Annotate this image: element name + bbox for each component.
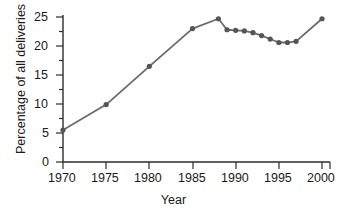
y-axis-title: Percentage of all deliveries <box>14 4 28 154</box>
data-point <box>216 16 221 21</box>
data-point <box>233 28 238 33</box>
x-tick-label-1985: 1985 <box>178 172 206 185</box>
chart-container: 25 20 15 10 5 0 1970 1975 1980 1985 1990… <box>0 0 347 217</box>
y-tick-label-25: 25 <box>34 11 48 24</box>
data-point <box>147 64 152 69</box>
data-point <box>259 33 264 38</box>
data-point <box>250 30 255 35</box>
series-data-points <box>60 16 324 133</box>
y-tick-marks <box>56 17 63 162</box>
x-tick-label-1995: 1995 <box>264 172 292 185</box>
x-tick-label-2000: 2000 <box>307 172 335 185</box>
y-tick-label-10: 10 <box>34 98 48 111</box>
data-point <box>285 40 290 45</box>
data-point <box>104 102 109 107</box>
x-tick-marks <box>63 162 330 169</box>
y-tick-label-20: 20 <box>34 40 48 53</box>
y-tick-label-15: 15 <box>34 69 48 82</box>
x-axis-title: Year <box>0 193 347 207</box>
x-tick-label-1980: 1980 <box>134 172 162 185</box>
data-point <box>268 36 273 41</box>
y-tick-label-0: 0 <box>42 156 49 169</box>
data-point <box>242 28 247 33</box>
data-point <box>224 27 229 32</box>
data-point <box>294 39 299 44</box>
x-tick-label-1975: 1975 <box>91 172 119 185</box>
y-tick-label-5: 5 <box>42 127 49 140</box>
data-point <box>190 26 195 31</box>
axes-group <box>63 15 330 162</box>
data-series-line <box>60 16 324 133</box>
series-polyline <box>63 19 322 130</box>
data-point <box>276 40 281 45</box>
x-tick-label-1970: 1970 <box>48 172 76 185</box>
data-point <box>60 128 65 133</box>
data-point <box>319 16 324 21</box>
x-tick-label-1990: 1990 <box>221 172 249 185</box>
